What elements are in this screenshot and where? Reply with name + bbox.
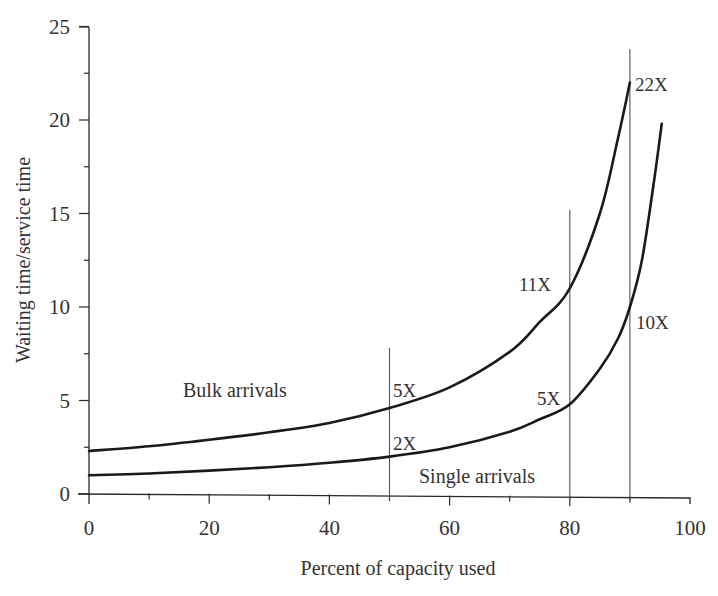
y-tick-label: 0 [60, 482, 71, 506]
annotation-bulk-50: 5X [393, 380, 417, 401]
x-tick-label: 100 [674, 516, 706, 540]
y-tick-label: 15 [49, 202, 70, 226]
x-tick-label: 80 [559, 516, 580, 540]
bulk-arrivals-label: Bulk arrivals [183, 379, 287, 401]
x-tick-label: 20 [199, 516, 220, 540]
single-arrivals-curve [89, 124, 662, 476]
y-axis-title: Waiting time/service time [12, 157, 35, 363]
waiting-time-chart: 0510152025 020406080100 Bulk arrivals Si… [0, 0, 718, 596]
x-axis [78, 494, 690, 504]
x-tick-label: 40 [319, 516, 340, 540]
y-axis [79, 27, 89, 504]
y-tick-label: 10 [49, 295, 70, 319]
y-tick-label: 25 [49, 15, 70, 39]
annotation-bulk-80: 11X [519, 274, 551, 295]
x-tick-label: 60 [439, 516, 460, 540]
y-tick-label: 5 [60, 389, 71, 413]
x-tick-label: 0 [84, 516, 95, 540]
x-axis-title: Percent of capacity used [301, 557, 496, 580]
single-arrivals-label: Single arrivals [419, 465, 535, 488]
annotation-single-80: 5X [537, 388, 561, 409]
y-axis-ticks: 0510152025 [49, 15, 89, 507]
x-axis-ticks: 020406080100 [84, 493, 706, 540]
annotation-single-50: 2X [393, 433, 417, 454]
annotation-single-90: 10X [636, 312, 669, 333]
y-tick-label: 20 [49, 108, 70, 132]
annotation-bulk-90: 22X [635, 74, 668, 95]
